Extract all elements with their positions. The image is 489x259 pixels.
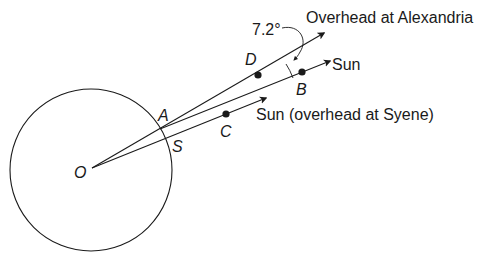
point-c bbox=[222, 110, 229, 117]
label-overhead-alexandria: Overhead at Alexandria bbox=[306, 9, 473, 26]
angle-arc bbox=[286, 64, 293, 78]
angle-label: 7.2° bbox=[252, 21, 281, 38]
label-a: A bbox=[157, 107, 169, 124]
eratosthenes-diagram: O A S C D B 7.2° Overhead at Alexandria … bbox=[0, 0, 489, 259]
label-c: C bbox=[220, 123, 232, 140]
label-o: O bbox=[74, 164, 86, 181]
point-b bbox=[298, 68, 305, 75]
label-sun-syene: Sun (overhead at Syene) bbox=[256, 106, 434, 123]
label-sun: Sun bbox=[332, 56, 360, 73]
line-o-syene-sun bbox=[92, 98, 266, 168]
label-b: B bbox=[296, 81, 307, 98]
point-d bbox=[254, 71, 261, 78]
label-d: D bbox=[245, 51, 257, 68]
label-s: S bbox=[172, 138, 183, 155]
line-o-alexandria bbox=[92, 33, 324, 168]
earth-circle bbox=[10, 89, 172, 251]
